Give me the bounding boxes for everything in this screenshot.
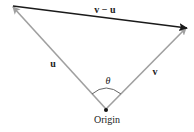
label-u: u bbox=[50, 58, 56, 69]
label-v-minus-u: v − u bbox=[94, 4, 116, 15]
label-origin: Origin bbox=[94, 114, 120, 125]
label-theta: θ bbox=[106, 75, 111, 86]
origin-dot bbox=[104, 108, 108, 112]
vector-v-arrow bbox=[106, 28, 186, 109]
angle-arc bbox=[92, 88, 121, 94]
vector-diagram: v − u u v θ Origin bbox=[0, 0, 194, 132]
label-v: v bbox=[153, 66, 158, 77]
